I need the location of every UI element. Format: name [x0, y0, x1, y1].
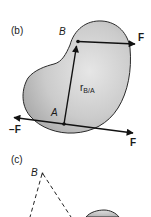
rigid-body-couple-figure: (b) B F rB/A A −F F (c) B [0, 0, 151, 217]
rigid-body-shape [23, 21, 131, 133]
dashed-line-left [30, 174, 42, 217]
point-B-c-label: B [31, 168, 38, 178]
panel-b-label: (b) [11, 26, 23, 36]
force-F-at-A-label: F [130, 138, 136, 148]
force-neg-F-label: −F [9, 125, 21, 135]
point-B-c-dot [42, 173, 44, 175]
rigid-body-shape-c [86, 210, 119, 217]
position-vector-label: rB/A [80, 83, 95, 94]
position-vector-subscript: B/A [83, 87, 94, 94]
point-A-label: A [51, 108, 58, 118]
force-F-at-B-label: F [138, 33, 144, 43]
point-B-label: B [59, 27, 66, 37]
panel-c-label: (c) [11, 155, 23, 165]
point-A-dot [62, 122, 66, 126]
point-B-dot [76, 40, 80, 44]
dashed-line-right [43, 174, 71, 217]
